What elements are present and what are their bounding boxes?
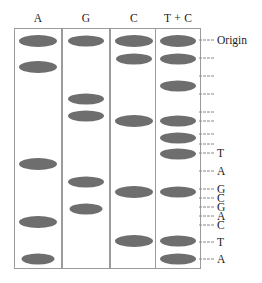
lane-header-g: G (62, 10, 110, 26)
ruler-tick (199, 171, 214, 172)
ruler-tick (199, 259, 214, 260)
sequence-base-label: A (217, 252, 225, 266)
lane-a (14, 28, 62, 269)
gel-band (115, 235, 153, 247)
gel-band (160, 254, 196, 265)
gel-band (160, 35, 196, 47)
gel-band (160, 81, 196, 92)
ruler-tick (199, 153, 214, 154)
gel-band (19, 61, 57, 73)
ruler-tick (199, 134, 214, 135)
lane-g (62, 28, 110, 269)
sequence-base-label: T (217, 146, 224, 160)
sequence-ruler: OriginTAGCGACTA (199, 28, 261, 269)
gel-band (160, 149, 196, 160)
gel-band (68, 177, 104, 188)
gel-band (68, 111, 104, 122)
ruler-tick (199, 216, 214, 217)
lane-header-a: A (14, 10, 62, 26)
gel-band (160, 54, 196, 65)
ruler-tick (199, 242, 214, 243)
ruler-tick (199, 112, 214, 113)
gel-band (115, 115, 153, 127)
lane-header-tplusc: T + C (155, 10, 201, 26)
gel-band (160, 187, 196, 198)
sequence-base-label: T (217, 235, 224, 249)
gel-band (160, 116, 196, 127)
gel-band (70, 204, 103, 215)
ruler-tick (199, 40, 214, 41)
ruler-tick (199, 189, 214, 190)
gel-band (160, 133, 196, 144)
sequence-base-label: A (217, 164, 225, 178)
gel-autoradiogram-figure: AGCT + C OriginTAGCGACTA (0, 0, 262, 283)
ruler-tick (199, 198, 214, 199)
gel-band (19, 216, 57, 228)
lane-tc (155, 28, 201, 269)
ruler-tick (199, 207, 214, 208)
sequence-base-label: C (217, 218, 225, 232)
gel-band (22, 254, 55, 265)
gel-band (19, 158, 57, 170)
ruler-tick (199, 121, 214, 122)
ruler-tick (199, 58, 214, 59)
lane-c (110, 28, 158, 269)
ruler-tick (199, 76, 214, 77)
lane-header-c: C (110, 10, 158, 26)
gel-band (68, 36, 104, 47)
gel-band (160, 236, 196, 247)
gel-band (115, 186, 153, 198)
gel-band (115, 35, 153, 47)
ruler-tick (199, 144, 214, 145)
ruler-tick (199, 94, 214, 95)
origin-label: Origin (217, 33, 247, 47)
gel-band (116, 54, 152, 65)
ruler-tick (199, 225, 214, 226)
gel-band (68, 94, 104, 105)
gel-band (19, 35, 57, 47)
